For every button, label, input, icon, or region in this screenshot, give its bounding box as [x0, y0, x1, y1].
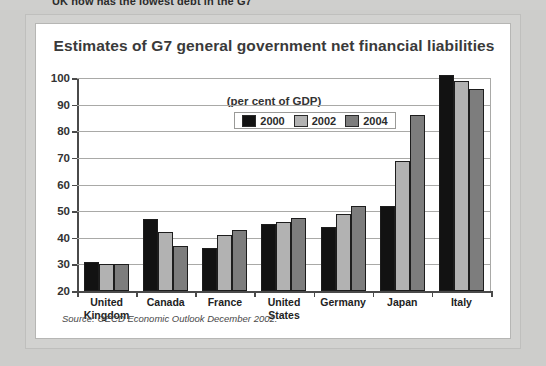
bar-canada-2000 [143, 219, 158, 291]
bar-japan-2004 [410, 115, 425, 291]
bar-italy-2000 [439, 75, 454, 291]
y-tick-label-80: 80 [57, 125, 70, 137]
bar-group-italy [432, 78, 491, 291]
bar-united-states-2000 [261, 224, 276, 291]
y-tick-label-20: 20 [57, 285, 70, 297]
chart-title: Estimates of G7 general government net f… [36, 37, 512, 55]
bar-canada-2002 [158, 232, 173, 291]
bar-united-kingdom-2000 [84, 262, 99, 291]
figure-panel: Estimates of G7 general government net f… [35, 23, 511, 339]
plot-area: 2030405060708090100 [77, 78, 491, 291]
bar-japan-2000 [380, 206, 395, 291]
bar-canada-2004 [173, 246, 188, 291]
article-headline-text: UK now has the lowest debt in the G7 [52, 0, 252, 7]
bar-group-united-kingdom [77, 78, 136, 291]
bar-france-2002 [217, 235, 232, 291]
bar-france-2000 [202, 248, 217, 291]
bar-group-united-states [254, 78, 313, 291]
bar-united-kingdom-2002 [99, 264, 114, 291]
y-tick-label-70: 70 [57, 152, 70, 164]
bar-united-kingdom-2004 [114, 264, 129, 291]
bar-group-canada [136, 78, 195, 291]
y-tick-label-40: 40 [57, 232, 70, 244]
y-tick-label-50: 50 [57, 205, 70, 217]
y-tick-label-90: 90 [57, 99, 70, 111]
bar-italy-2004 [469, 89, 484, 291]
bar-germany-2004 [351, 206, 366, 291]
bar-united-states-2002 [276, 222, 291, 291]
screenshot-root: UK now has the lowest debt in the G7 Est… [0, 0, 546, 366]
x-axis-label-germany: Germany [314, 296, 373, 332]
bar-japan-2002 [395, 161, 410, 291]
y-tick-label-30: 30 [57, 258, 70, 270]
bar-group-france [195, 78, 254, 291]
x-axis-label-italy: Italy [432, 296, 491, 332]
bar-group-japan [373, 78, 432, 291]
y-tick-label-60: 60 [57, 179, 70, 191]
bar-france-2004 [232, 230, 247, 291]
bar-united-states-2004 [291, 218, 306, 291]
bar-germany-2000 [321, 227, 336, 291]
chart-source: Source: OECD Economic Outlook December 2… [62, 313, 277, 324]
bar-italy-2002 [454, 81, 469, 291]
x-tick-7 [491, 291, 493, 297]
article-headline-strip: UK now has the lowest debt in the G7 [0, 0, 546, 10]
bar-germany-2002 [336, 214, 351, 291]
bar-group-germany [314, 78, 373, 291]
y-tick-label-100: 100 [51, 72, 70, 84]
figure-outer-frame: Estimates of G7 general government net f… [25, 14, 521, 349]
bar-groups [77, 78, 491, 291]
x-axis-label-japan: Japan [373, 296, 432, 332]
